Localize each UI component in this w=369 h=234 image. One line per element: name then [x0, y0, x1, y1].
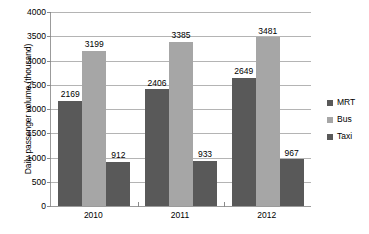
y-tick-label: 2500 — [14, 81, 46, 90]
legend: MRTBusTaxi — [327, 94, 369, 145]
bar-mrt[interactable]: 2406 — [145, 89, 169, 206]
bar-taxi[interactable]: 967 — [280, 159, 304, 206]
x-axis-tick-labels: 201020112012 — [50, 210, 310, 220]
bar-value-label: 2169 — [61, 90, 80, 99]
y-axis-tick-labels: 05001000150020002500300035004000 — [14, 0, 46, 234]
y-tick-label: 3500 — [14, 32, 46, 41]
bar-value-label: 3385 — [172, 31, 191, 40]
legend-swatch-icon — [327, 117, 333, 123]
bar-chart: Daily passenger volume (thousand) 050010… — [0, 0, 369, 234]
bar-mrt[interactable]: 2649 — [232, 78, 256, 206]
bars: 26493481967 — [224, 12, 311, 206]
y-tick-label: 500 — [14, 178, 46, 187]
bar-taxi[interactable]: 912 — [106, 162, 130, 206]
legend-item-mrt[interactable]: MRT — [327, 94, 369, 111]
y-axis-tickmark — [47, 206, 51, 207]
legend-swatch-icon — [327, 100, 333, 106]
y-tick-label: 4000 — [14, 8, 46, 17]
legend-label: MRT — [337, 98, 355, 107]
bar-bus[interactable]: 3481 — [256, 37, 280, 206]
bar-groups: 216931999122406338593326493481967 — [51, 12, 311, 206]
bar-value-label: 967 — [285, 149, 299, 158]
bar-value-label: 912 — [111, 151, 125, 160]
legend-item-bus[interactable]: Bus — [327, 111, 369, 128]
legend-swatch-icon — [327, 134, 333, 140]
legend-label: Taxi — [337, 132, 352, 141]
bar-taxi[interactable]: 933 — [193, 161, 217, 206]
bar-bus[interactable]: 3199 — [82, 51, 106, 206]
y-tick-label: 3000 — [14, 56, 46, 65]
y-tick-label: 1500 — [14, 129, 46, 138]
bar-mrt[interactable]: 2169 — [58, 101, 82, 206]
legend-label: Bus — [337, 115, 352, 124]
legend-item-taxi[interactable]: Taxi — [327, 128, 369, 145]
bar-group: 24063385933 — [138, 12, 225, 206]
bar-value-label: 3481 — [258, 27, 277, 36]
bar-value-label: 3199 — [85, 40, 104, 49]
bar-group: 26493481967 — [224, 12, 311, 206]
bars: 24063385933 — [138, 12, 225, 206]
y-tick-label: 0 — [14, 202, 46, 211]
bar-value-label: 2649 — [234, 67, 253, 76]
bar-value-label: 933 — [198, 150, 212, 159]
bar-bus[interactable]: 3385 — [169, 42, 193, 206]
y-tick-label: 2000 — [14, 105, 46, 114]
plot-area: 216931999122406338593326493481967 — [50, 12, 311, 207]
x-tick-label: 2012 — [223, 210, 310, 220]
x-tick-label: 2011 — [137, 210, 224, 220]
bar-value-label: 2406 — [148, 79, 167, 88]
x-tick-label: 2010 — [50, 210, 137, 220]
y-tick-label: 1000 — [14, 153, 46, 162]
bars: 21693199912 — [51, 12, 138, 206]
bar-group: 21693199912 — [51, 12, 138, 206]
